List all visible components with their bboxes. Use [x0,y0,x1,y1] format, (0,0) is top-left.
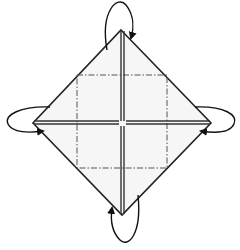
origami-diagram [0,0,240,250]
paper-diamond [33,30,211,215]
